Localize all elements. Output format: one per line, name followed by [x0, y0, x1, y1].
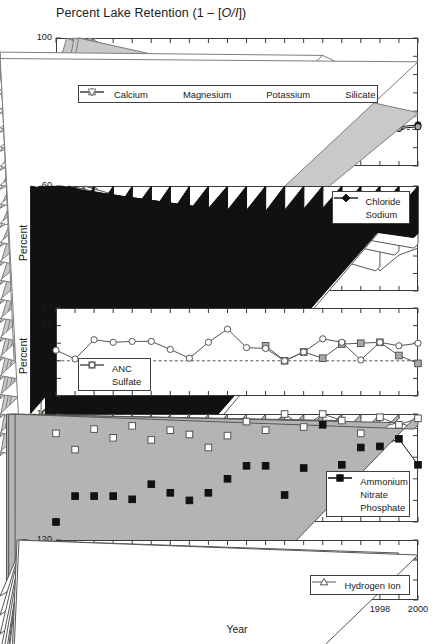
legend-label: Sulfate — [109, 376, 147, 387]
figure-root: Percent Lake Retention (1 – [O/I]) Perce… — [0, 0, 434, 644]
legend-label: ANC — [109, 363, 138, 374]
legend-item-silicate[interactable]: Silicate — [316, 88, 381, 101]
legend-marker-gray-circle-icon — [154, 88, 180, 100]
legend-label: Sodium — [363, 209, 404, 220]
legend-marker-triangle-down-icon — [316, 88, 342, 100]
legend-item-magnesium[interactable]: Magnesium — [154, 88, 237, 101]
legend-marker-filled-diamond-icon — [337, 209, 363, 221]
legend-marker-open-circle-icon — [83, 376, 109, 388]
legend-item-nitrate[interactable]: Nitrate — [331, 488, 405, 501]
legend-item-phosphate[interactable]: Phosphate — [331, 501, 405, 514]
x-tick-label: 1998 — [363, 604, 397, 614]
legend-marker-filled-square-icon — [331, 502, 357, 514]
plot-svg-panel-3 — [0, 308, 434, 400]
legend-panel-3[interactable]: ANCSulfate — [78, 358, 151, 391]
figure-title-suffix: ]) — [238, 6, 246, 20]
legend-label: Calcium — [111, 89, 154, 100]
legend-panel-1[interactable]: CalciumMagnesiumPotassiumSilicate — [78, 85, 378, 103]
legend-panel-4[interactable]: AmmoniumNitratePhosphate — [326, 471, 410, 517]
plot-svg-panel-1 — [0, 38, 434, 170]
legend-label: Chloride — [363, 196, 407, 207]
legend-label: Silicate — [342, 89, 381, 100]
chart-panel-3: Percent-40-200204060ANCSulfate — [0, 308, 434, 420]
figure-title-prefix: Percent Lake Retention (1 – [ — [56, 6, 222, 20]
legend-marker-triangle-up-icon — [315, 580, 341, 592]
figure-title: Percent Lake Retention (1 – [O/I]) — [56, 6, 246, 20]
x-tick-label: 2000 — [401, 604, 434, 614]
legend-label: Hydrogen Ion — [341, 580, 406, 591]
legend-panel-2[interactable]: ChlorideSodium — [332, 191, 410, 224]
legend-label: Potassium — [263, 89, 316, 100]
legend-item-hydrogen-ion[interactable]: Hydrogen Ion — [315, 579, 405, 592]
x-axis-title: Year — [56, 623, 418, 635]
legend-marker-open-square-icon — [331, 489, 357, 501]
figure-title-italic: O/I — [222, 6, 239, 20]
chart-panel-5: Percent608010012019821984198619881990199… — [0, 540, 434, 624]
legend-label: Magnesium — [180, 89, 237, 100]
legend-marker-triangle-up-icon — [237, 88, 263, 100]
legend-label: Nitrate — [357, 489, 394, 500]
legend-item-potassium[interactable]: Potassium — [237, 88, 316, 101]
legend-panel-5[interactable]: Hydrogen Ion — [310, 575, 410, 595]
legend-item-sodium[interactable]: Sodium — [337, 208, 405, 221]
chart-panel-4: Percent020406080100AmmoniumNitratePhosph… — [0, 414, 434, 546]
legend-label: Phosphate — [357, 502, 411, 513]
chart-panel-2: Percent-60-40-200204060ChlorideSodium — [0, 186, 434, 315]
legend-label: Ammonium — [357, 476, 413, 487]
legend-item-sulfate[interactable]: Sulfate — [83, 375, 146, 388]
chart-panel-1: Percent-40-20020406080100CalciumMagnesiu… — [0, 38, 434, 190]
